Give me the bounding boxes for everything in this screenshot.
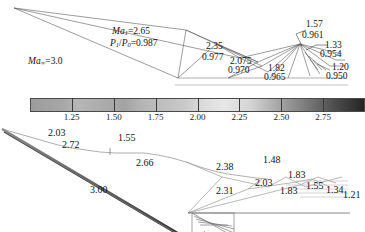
upper-annotation-ptot-0-970: 0.970 — [228, 66, 249, 76]
upper-annotation-ptot-0-965: 0.965 — [264, 73, 285, 83]
upper-region-pressure-label: P1/P0=0.987 — [110, 39, 158, 49]
lower-annotation-mach-2-38: 2.38 — [216, 162, 234, 172]
lower-annotation-mach-1-83-upper: 1.83 — [288, 170, 306, 180]
colorbar-divider — [198, 98, 199, 112]
colorbar-tick-5: 2.25 — [232, 112, 248, 122]
colorbar-divider — [72, 98, 73, 112]
colorbar-divider — [239, 98, 240, 112]
upper-annotation-ptot-0-954: 0.954 — [320, 50, 341, 60]
colorbar-tick-2: 1.50 — [106, 112, 122, 122]
upper-annotation-ptot-0-977: 0.977 — [202, 53, 223, 63]
colorbar-tick-6: 2.50 — [273, 112, 289, 122]
colorbar — [30, 98, 365, 112]
lower-annotation-mach-2-03-lower: 2.03 — [255, 178, 273, 188]
lower-annotation-mach-1-55-upper: 1.55 — [118, 133, 136, 143]
upper-inflow-mach-label: Ma∞=3.0 — [28, 57, 63, 67]
lower-annotation-mach-1-34: 1.34 — [326, 185, 344, 195]
colorbar-divider — [114, 98, 115, 112]
colorbar-divider — [156, 98, 157, 112]
upper-annotation-mach-2-35: 2.35 — [206, 42, 223, 52]
colorbar-tick-7: 2.75 — [315, 112, 331, 122]
colorbar-divider — [323, 98, 324, 112]
upper-annotation-ptot-0-950: 0.950 — [326, 72, 347, 82]
figure-container: Ma∞=3.0 Ma1=2.65 P1/P0=0.987 2.35 0.977 … — [0, 0, 365, 232]
lower-annotation-mach-1-21: 1.21 — [343, 190, 361, 200]
upper-panel-geometry — [0, 0, 365, 95]
colorbar-tick-1: 1.25 — [64, 112, 80, 122]
colorbar-divider — [281, 98, 282, 112]
colorbar-tick-4: 2.00 — [190, 112, 206, 122]
colorbar-tick-labels: 1.25 1.50 1.75 2.00 2.25 2.50 2.75 — [30, 112, 365, 124]
upper-annotation-mach-1-57: 1.57 — [306, 20, 323, 30]
lower-annotation-mach-1-55-right: 1.55 — [306, 181, 324, 191]
lower-annotation-mach-2-31: 2.31 — [216, 186, 234, 196]
upper-region-mach-label: Ma1=2.65 — [112, 27, 150, 37]
lower-annotation-mach-2-66: 2.66 — [136, 158, 154, 168]
lower-annotation-mach-3-00: 3.00 — [90, 185, 108, 195]
colorbar-tick-3: 1.75 — [148, 112, 164, 122]
upper-annotation-ptot-0-961: 0.961 — [302, 31, 323, 41]
lower-annotation-mach-1-83-lower: 1.83 — [280, 186, 298, 196]
lower-annotation-mach-1-48: 1.48 — [263, 155, 281, 165]
lower-annotation-mach-2-72: 2.72 — [62, 140, 80, 150]
lower-annotation-mach-2-03-upper: 2.03 — [48, 128, 66, 138]
